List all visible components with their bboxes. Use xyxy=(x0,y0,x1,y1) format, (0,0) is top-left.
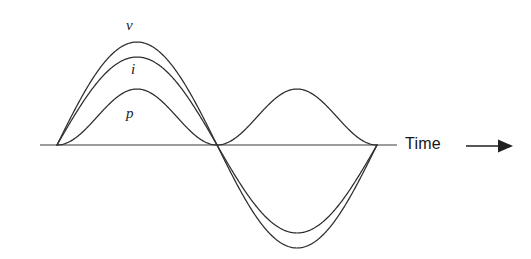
curve-label-p: p xyxy=(126,106,134,121)
waveform-plot xyxy=(0,0,531,259)
power-curve-p xyxy=(57,89,377,145)
curve-label-v: v xyxy=(126,18,133,33)
waveform-figure: v i p Time xyxy=(0,0,531,259)
curve-label-i: i xyxy=(131,62,135,77)
right-arrow-icon xyxy=(466,140,513,153)
time-axis-label: Time xyxy=(405,135,441,153)
